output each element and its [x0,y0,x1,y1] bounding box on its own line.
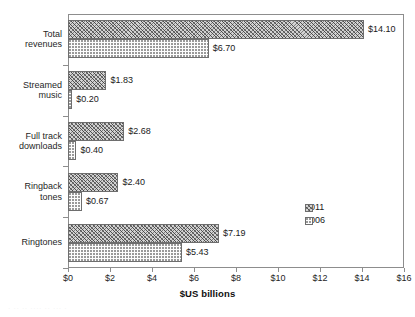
bar-2006-3 [68,141,76,160]
legend-swatch-2006 [305,217,313,225]
x-axis-tick-8 [404,268,405,272]
x-axis-label-5: $10 [258,273,298,283]
value-label-2011-2: $1.83 [110,76,133,85]
x-axis-label-1: $2 [90,273,130,283]
x-axis-tick-2 [152,268,153,272]
x-axis-title: $US billions [0,288,415,299]
x-axis-tick-5 [278,268,279,272]
bar-2006-1 [68,39,209,58]
x-axis-label-7: $14 [342,273,382,283]
bar-2011-3 [68,122,124,141]
value-label-2006-3: $0.40 [80,146,103,155]
y-axis-tick-1 [63,65,68,66]
value-label-2006-4: $0.67 [86,197,109,206]
x-axis-label-0: $0 [48,273,88,283]
value-label-2011-3: $2.68 [128,127,151,136]
x-axis-tick-1 [110,268,111,272]
bar-2006-4 [68,192,82,211]
bar-2011-5 [68,224,219,243]
bar-2006-5 [68,243,182,262]
bar-chart: Total revenuesStreamed musicFull track d… [0,0,415,317]
y-axis-tick-2 [63,116,68,117]
value-label-2006-5: $5.43 [186,248,209,257]
x-axis-tick-6 [320,268,321,272]
value-label-2011-1: $14.10 [368,25,396,34]
x-axis-label-4: $8 [216,273,256,283]
bar-2011-1 [68,20,364,39]
x-axis-tick-7 [362,268,363,272]
bar-2011-2 [68,71,106,90]
bar-2011-4 [68,173,118,192]
x-axis-label-2: $4 [132,273,172,283]
y-axis-label-1: Total revenues [0,29,62,50]
x-axis-tick-3 [194,268,195,272]
value-label-2011-4: $2.40 [122,178,145,187]
x-axis-label-3: $6 [174,273,214,283]
x-axis-label-6: $12 [300,273,340,283]
legend-item-2011: 2011 [305,201,325,214]
x-axis-tick-0 [68,268,69,272]
value-label-2006-2: $0.20 [76,95,99,104]
chart-legend: 2011 2006 [305,201,325,227]
y-axis-label-2: Streamed music [0,80,62,101]
y-axis-label-3: Full track downloads [0,131,62,152]
legend-swatch-2011 [305,204,313,212]
legend-item-2006: 2006 [305,214,325,227]
scan-artifact-text: · ·· ·· ···· ·· ··· · [8,305,67,313]
x-axis-label-8: $16 [384,273,415,283]
y-axis-tick-4 [63,217,68,218]
bar-2006-2 [68,90,72,109]
value-label-2011-5: $7.19 [223,229,246,238]
value-label-2006-1: $6.70 [213,44,236,53]
y-axis-label-4: Ringback tones [0,181,62,202]
y-axis-tick-3 [63,166,68,167]
x-axis-tick-4 [236,268,237,272]
y-axis-label-5: Ringtones [0,237,62,248]
